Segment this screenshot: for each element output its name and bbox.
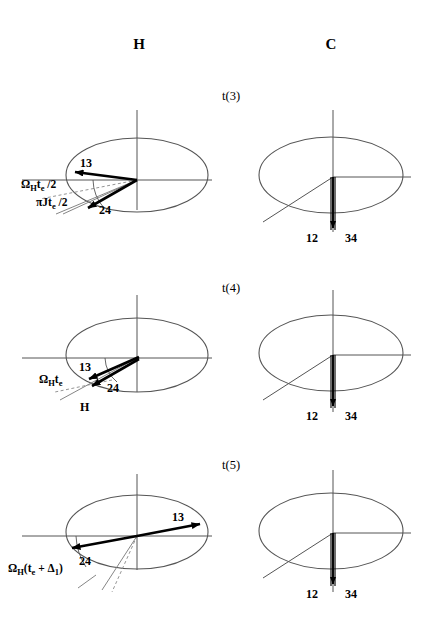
vector-label-12: 12 (306, 231, 318, 245)
vector-label-13: 13 (172, 510, 184, 524)
angle-arc-1 (93, 180, 104, 208)
vector-label-24: 24 (107, 381, 119, 395)
vector-label-13: 13 (80, 156, 92, 170)
vector-24 (92, 359, 139, 386)
vector-label-24: 24 (79, 554, 91, 568)
angle-label-pi-j-te-half: πJte /2 (36, 196, 68, 211)
time-label-t4: t(4) (222, 281, 282, 296)
vector-label-24: 24 (99, 203, 111, 217)
panel-h-t5: 13 24 ΩH(te + Δ1) (8, 474, 212, 592)
panel-h-t4: 13 24 ΩHte H (22, 295, 212, 414)
panel-h-t3: 13 24 ΩHte /2 πJte /2 (21, 110, 212, 217)
angle-label-omega-h-te-half: ΩHte /2 (21, 178, 57, 193)
vector-24 (72, 536, 137, 548)
xy-plane-ellipse (259, 493, 403, 569)
axis-diagonal (263, 533, 333, 578)
guide-line-dashed (112, 536, 137, 592)
xy-plane-ellipse (259, 137, 403, 213)
time-label-t3: t(3) (222, 89, 282, 104)
vector-label-12: 12 (306, 409, 318, 423)
guide-line-pij-2 (63, 180, 137, 214)
column-header-c: C (311, 36, 351, 53)
vector-label-34: 34 (345, 409, 357, 423)
vector-label-34: 34 (345, 587, 357, 601)
axis-diagonal (263, 355, 333, 400)
xy-plane-ellipse (66, 495, 208, 569)
vector-24 (88, 180, 137, 208)
column-header-h: H (119, 36, 159, 53)
angle-arc-1 (76, 536, 86, 567)
axis-label-line-h (60, 358, 137, 400)
panel-c-t5: 12 34 (259, 470, 411, 601)
vector-13 (137, 524, 200, 536)
vector-13 (89, 357, 139, 379)
axis-diagonal (263, 177, 333, 222)
axis-label-h: H (80, 400, 90, 414)
guide-line-omega (55, 380, 112, 392)
xy-plane-ellipse (66, 318, 208, 392)
vector-label-13: 13 (79, 360, 91, 374)
vector-label-34: 34 (345, 231, 357, 245)
diagram-canvas: 13 24 ΩHte /2 πJte /2 12 34 (0, 0, 430, 637)
angle-arc-1 (105, 358, 117, 382)
time-label-t5: t(5) (222, 458, 282, 473)
vector-label-12: 12 (306, 587, 318, 601)
xy-plane-ellipse (66, 138, 208, 212)
nmr-vector-diagram: H C t(3) t(4) t(5) (0, 0, 430, 637)
guide-line-2 (78, 575, 96, 588)
vector-13 (75, 172, 137, 180)
xy-plane-ellipse (259, 315, 403, 391)
guide-line-pij (56, 180, 137, 214)
guide-line-1 (102, 536, 137, 590)
angle-label-omega-h-te: ΩHte (39, 373, 63, 388)
angle-label-omega-h-te-plus-delta1: ΩH(te + Δ1) (8, 562, 63, 577)
panel-c-t3: 12 34 (259, 110, 411, 245)
guide-line-omega (40, 180, 137, 199)
panel-c-t4: 12 34 (259, 290, 411, 423)
